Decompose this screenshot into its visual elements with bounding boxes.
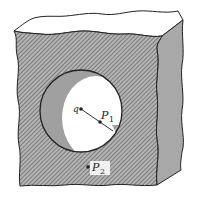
charge-q-label: q: [73, 104, 79, 114]
point-p1-subscript: 1: [109, 115, 114, 124]
point-p2-subscript: 2: [100, 167, 105, 176]
charge-q-dot: [79, 107, 83, 111]
point-p1-label: P: [100, 109, 109, 122]
conductor-diagram: q P 1 P 2: [0, 0, 198, 198]
point-p2-label: P: [91, 161, 100, 174]
block-side-face: [156, 20, 183, 185]
point-p2-dot: [86, 165, 90, 169]
